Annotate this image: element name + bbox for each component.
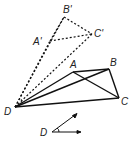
angle-arc bbox=[57, 128, 59, 132]
rotation-angle bbox=[52, 114, 81, 134]
angle-ray-diagonal bbox=[52, 115, 75, 132]
label-A-prime: A' bbox=[32, 36, 43, 47]
segment-DA bbox=[15, 72, 73, 107]
segment-B'C' bbox=[64, 17, 92, 34]
arrow-head-icon bbox=[77, 131, 81, 134]
label-D: D bbox=[4, 106, 11, 117]
original-figure bbox=[15, 69, 119, 107]
label-B-prime: B' bbox=[63, 4, 73, 15]
arrow-head-icon bbox=[73, 114, 78, 119]
rotated-figure bbox=[15, 17, 92, 107]
label-B: B bbox=[110, 57, 117, 68]
rotation-diagram: D A B C A' B' C' D bbox=[0, 0, 136, 146]
label-C-prime: C' bbox=[94, 28, 104, 39]
segment-DC' bbox=[15, 34, 92, 107]
segment-DB bbox=[15, 69, 109, 107]
label-A: A bbox=[69, 59, 77, 70]
label-C: C bbox=[121, 96, 129, 107]
segment-DC bbox=[15, 98, 119, 107]
label-angle-D: D bbox=[40, 127, 47, 138]
